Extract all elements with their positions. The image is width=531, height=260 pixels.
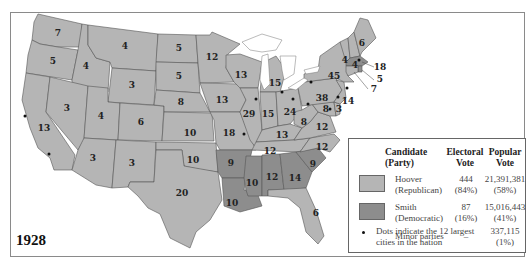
ev-oklahoma: 10 (187, 155, 200, 165)
city-dot-san-francisco (24, 115, 27, 118)
legend-swatch-democratic (359, 203, 385, 220)
ev-oregon: 5 (50, 56, 56, 66)
ev-rhode-island: 5 (377, 74, 383, 84)
legend-swatch-republican (359, 175, 385, 192)
ev-montana: 4 (122, 41, 128, 51)
city-dot-icon (362, 231, 365, 234)
city-dot-new-york (346, 87, 349, 90)
ev-california: 13 (38, 123, 51, 133)
ev-missouri: 18 (223, 128, 236, 138)
city-dot-los-angeles (48, 153, 51, 156)
legend-dots-text: Dots indicate the 12 largest cities in t… (376, 226, 474, 247)
ev-arizona: 3 (90, 153, 96, 163)
ev-kansas: 10 (184, 128, 197, 138)
ev-arkansas: 9 (228, 158, 234, 168)
city-dot-detroit (281, 91, 284, 94)
ev-massachusetts: 18 (374, 62, 387, 72)
ev-north-carolina: 12 (316, 142, 329, 152)
ev-washington: 7 (55, 28, 61, 38)
legend-hoover-electoral: 444 (84%) (451, 174, 481, 195)
ev-utah: 4 (98, 111, 104, 121)
ev-pennsylvania: 38 (316, 93, 329, 103)
city-dot-st-louis (243, 133, 246, 136)
ev-connecticut: 7 (371, 84, 377, 94)
ev-wyoming: 3 (129, 80, 135, 90)
ev-new-mexico: 3 (129, 158, 135, 168)
ev-new-hampshire: 4 (352, 60, 358, 70)
legend-hoover-popular: 21,391,381 (58%) (483, 174, 527, 195)
city-dot-cleveland (292, 98, 295, 101)
legend-hoover-name: Hoover (Republican) (395, 174, 442, 195)
ev-west-virginia: 8 (301, 117, 307, 127)
ev-south-dakota: 5 (176, 71, 182, 81)
ev-texas: 20 (176, 188, 189, 198)
ev-nevada: 3 (64, 103, 70, 113)
lake-superior (242, 34, 282, 52)
legend-header-electoral: Electoral Vote (443, 147, 487, 169)
ev-colorado: 6 (138, 117, 144, 127)
city-dot-baltimore (329, 108, 332, 111)
ev-indiana: 15 (262, 109, 275, 119)
ev-michigan: 15 (269, 78, 282, 88)
state-mississippi (244, 156, 262, 196)
ev-nebraska: 8 (178, 97, 184, 107)
ev-virginia: 12 (316, 122, 329, 132)
ev-alabama: 12 (266, 172, 279, 182)
ev-minnesota: 12 (206, 52, 219, 62)
ev-iowa: 13 (216, 95, 229, 105)
legend-smith-electoral: 87 (16%) (451, 202, 481, 223)
ev-maryland: 8 (323, 104, 329, 114)
legend-header-candidate: Candidate (Party) (385, 147, 451, 169)
legend-header-popular: Popular Vote (483, 147, 527, 169)
ev-idaho: 4 (83, 61, 89, 71)
ev-illinois: 29 (243, 109, 256, 119)
leader-line-rhode-island (362, 70, 374, 80)
ev-kentucky: 13 (276, 130, 289, 140)
legend-smith-popular: 15,016,443 (41%) (483, 202, 527, 223)
city-dot-buffalo (310, 81, 313, 84)
leader-line-connecticut (354, 72, 368, 89)
city-dot-chicago (255, 98, 258, 101)
ev-new-jersey: 14 (342, 96, 355, 106)
ev-north-dakota: 5 (176, 43, 182, 53)
ev-vermont: 4 (342, 55, 348, 65)
ev-new-york: 45 (328, 71, 341, 81)
ev-louisiana: 10 (226, 198, 239, 208)
ev-florida: 6 (313, 208, 319, 218)
ev-ohio: 24 (284, 107, 297, 117)
legend-smith-name: Smith (Democratic) (395, 202, 443, 223)
city-dot-boston (358, 59, 361, 62)
ev-wisconsin: 13 (235, 70, 248, 80)
ev-georgia: 14 (289, 173, 302, 183)
city-dot-pittsburgh (307, 103, 310, 106)
ev-tennessee: 12 (264, 146, 277, 156)
city-dot-philadelphia (337, 96, 340, 99)
legend-dots-note: Dots indicate the 12 largest cities in t… (348, 226, 526, 256)
state-rhode-island (358, 66, 362, 72)
ev-maine: 6 (359, 38, 365, 48)
ev-south-carolina: 9 (310, 159, 316, 169)
ev-mississippi: 10 (246, 178, 259, 188)
map-year-label: 1928 (16, 232, 46, 249)
